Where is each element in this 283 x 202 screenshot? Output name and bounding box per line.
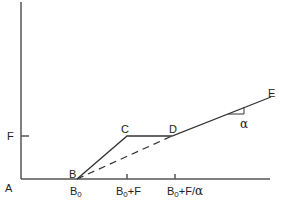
x-tick-label-b0-plus-f-over-alpha: B0+F/α	[167, 184, 203, 199]
point-label-c: C	[121, 123, 129, 135]
x-tick-label-b0: B0	[70, 185, 82, 199]
point-label-d: D	[169, 123, 177, 135]
x-tick-label-b0-plus-f: B0+F	[116, 185, 141, 199]
point-label-b: B	[69, 168, 76, 180]
point-label-e: E	[268, 87, 275, 99]
diagram: F A B0 B0+F B0+F/α α B C D E	[0, 0, 283, 202]
dashed-segment-b-d	[77, 136, 172, 179]
slope-label-alpha: α	[240, 117, 248, 131]
origin-label-a: A	[5, 182, 13, 194]
y-tick-label-f: F	[7, 130, 14, 142]
segment-b-c-d-e	[77, 97, 271, 179]
